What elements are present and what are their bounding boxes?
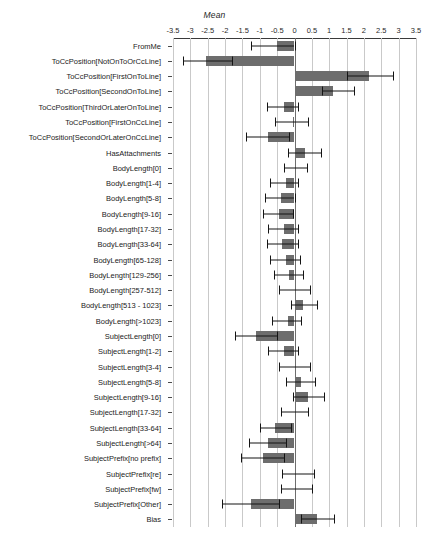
error-bar-cap-low [281,484,282,493]
y-category-label: BodyLength[129-256] [89,270,161,279]
error-bar-cap-high [310,286,311,295]
error-bar-line [267,106,298,107]
y-category-label: HasAttachments [106,148,161,157]
error-bar-cap-high [298,347,299,356]
gridline [347,38,348,527]
error-bar-line [222,504,279,505]
error-bar-cap-high [307,163,308,172]
error-bar-line [279,366,310,367]
y-axis-tick [168,122,172,123]
error-bar-line [281,488,312,489]
error-bar-cap-high [279,500,280,509]
x-tick-label: 1 [327,26,331,35]
error-bar-line [270,183,298,184]
y-category-label: Bias [146,515,161,524]
error-bar-line [260,427,291,428]
error-bar-line [263,213,293,214]
y-axis-tick [168,351,172,352]
y-category-label: BodyLength[513 - 1023] [81,301,161,310]
error-bar-cap-low [270,179,271,188]
y-axis-tick [168,321,172,322]
x-tick-label: 3 [397,26,401,35]
y-axis-tick [168,168,172,169]
y-category-label: BodyLength[0] [113,163,161,172]
y-category-label: BodyLength[>1023] [96,316,161,325]
error-bar-cap-high [308,408,309,417]
y-axis-category-labels: FromMeToCcPosition[NotOnToOrCcLine]ToCcP… [0,38,168,527]
error-bar-cap-high [284,454,285,463]
y-axis-tick [168,137,172,138]
y-axis-tick [168,443,172,444]
error-bar-cap-low [293,393,294,402]
y-axis-tick [168,458,172,459]
error-bar-cap-low [251,41,252,50]
error-bar-cap-low [246,133,247,142]
error-bar-cap-low [267,240,268,249]
y-axis-tick [168,367,172,368]
error-bar-cap-low [272,316,273,325]
error-bar-cap-low [274,270,275,279]
gridline [312,38,313,527]
error-bar-cap-high [310,362,311,371]
y-category-label: BodyLength[9-16] [102,209,161,218]
y-axis-tick [168,91,172,92]
error-bar-cap-high [301,316,302,325]
error-bar-line [249,442,285,443]
y-axis-tick [168,412,172,413]
error-bar-cap-low [286,377,287,386]
gridline [242,38,243,527]
error-bar-cap-high [300,255,301,264]
error-bar-line [235,335,277,336]
y-category-label: SubjectPrefix[Other] [94,500,161,509]
x-tick-label: -1 [256,26,263,35]
error-bar-cap-low [270,255,271,264]
y-category-label: ToCcPosition[FirstOnToLine] [66,72,161,81]
error-bar-cap-high [354,87,355,96]
axis-title-text: Mean [203,10,225,20]
error-bar-cap-high [295,194,296,203]
error-bar-cap-high [393,72,394,81]
error-bar-line [246,137,289,138]
error-bar-cap-low [268,225,269,234]
error-bar-cap-high [317,301,318,310]
error-bar-line [286,381,316,382]
gridline [190,38,191,527]
x-tick-label: 1.5 [341,26,351,35]
x-tick-label: -3.5 [167,26,180,35]
error-bar-cap-high [308,118,309,127]
error-bar-cap-high [298,240,299,249]
error-bar-line [347,76,394,77]
error-bar-line [268,351,298,352]
y-axis-tick [168,336,172,337]
error-bar-line [251,45,294,46]
gridline [364,38,365,527]
y-category-label: ToCcPosition[FirstOnCcLine] [65,118,161,127]
y-axis-tick [168,260,172,261]
error-bar-line [241,458,284,459]
error-bar-cap-low [301,515,302,524]
error-bar-line [272,320,302,321]
x-tick-label: -2 [222,26,229,35]
y-category-label: ToCcPosition[NotOnToOrCcLine] [52,56,161,65]
y-axis-tick [168,504,172,505]
error-bar-cap-low [235,331,236,340]
y-axis-tick [168,229,172,230]
error-bar-cap-high [289,133,290,142]
x-tick-label: 0 [292,26,296,35]
error-bar-cap-high [315,377,316,386]
error-bar-cap-low [260,423,261,432]
gridline [399,38,400,527]
y-axis-tick [168,61,172,62]
y-category-label: SubjectPrefix[fw] [105,484,161,493]
error-bar-cap-high [298,179,299,188]
error-bar-cap-low [288,148,289,157]
y-axis-tick [168,183,172,184]
error-bar-cap-high [293,209,294,218]
x-axis-tick-labels: -3.5-3-2.5-2-1.5-1-0.500.511.522.533.5 [0,26,425,38]
y-category-label: BodyLength[1-4] [106,179,161,188]
error-bar-cap-high [312,484,313,493]
y-category-label: BodyLength[65-128] [93,255,161,264]
error-bar-cap-high [298,225,299,234]
error-bar-cap-low [222,500,223,509]
error-bar-cap-high [303,270,304,279]
